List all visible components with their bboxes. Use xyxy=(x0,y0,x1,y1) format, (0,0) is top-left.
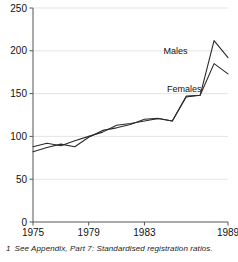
series-label-males: Males xyxy=(164,46,189,56)
x-tick-label-1979: 1979 xyxy=(78,227,101,238)
tick-marks-group xyxy=(30,8,229,226)
series-paths-group xyxy=(33,41,228,152)
series-line-females xyxy=(33,64,228,152)
y-axis-tick-labels: 050100150200250 xyxy=(10,3,27,228)
y-tick-label-100: 100 xyxy=(10,131,27,142)
y-tick-label-150: 150 xyxy=(10,88,27,99)
series-label-females: Females xyxy=(167,84,202,94)
y-tick-label-250: 250 xyxy=(10,3,27,14)
y-tick-label-200: 200 xyxy=(10,45,27,56)
axes-group xyxy=(33,8,228,222)
line-chart-plot: 050100150200250 1975197919831989 MalesFe… xyxy=(0,0,238,240)
x-tick-label-1975: 1975 xyxy=(22,227,45,238)
series-annotations: MalesFemales xyxy=(164,46,202,94)
footnote: 1See Appendix, Part 7: Standardised regi… xyxy=(6,244,236,253)
y-tick-label-0: 0 xyxy=(21,217,27,228)
chart-figure: 050100150200250 1975197919831989 MalesFe… xyxy=(0,0,238,262)
x-tick-label-1983: 1983 xyxy=(133,227,156,238)
y-tick-label-50: 50 xyxy=(16,174,28,185)
footnote-marker: 1 xyxy=(6,244,11,253)
footnote-text: See Appendix, Part 7: Standardised regis… xyxy=(15,244,213,253)
x-tick-label-1989: 1989 xyxy=(217,227,238,238)
x-axis-tick-labels: 1975197919831989 xyxy=(22,227,238,238)
